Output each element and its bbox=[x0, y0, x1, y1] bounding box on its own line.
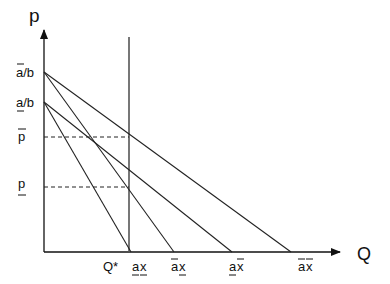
svg-text:a: a bbox=[229, 259, 237, 274]
svg-text:x: x bbox=[306, 259, 313, 274]
x-tick-abar-xunder: a x bbox=[171, 259, 186, 275]
svg-text:x: x bbox=[179, 259, 186, 274]
demand-line-abar-xunder bbox=[44, 72, 174, 252]
svg-text:x: x bbox=[140, 259, 147, 274]
x-tick-aunder-xbar: a x bbox=[229, 259, 244, 275]
x-tick-aunder-xunder: a x bbox=[132, 259, 147, 275]
demand-diagram: p Q a/b a/b p p Q* a x a x a x bbox=[0, 0, 390, 284]
svg-text:p: p bbox=[18, 176, 25, 191]
y-tick-aunder-over-b: a/b bbox=[16, 95, 34, 111]
x-tick-q-star: Q* bbox=[103, 259, 118, 274]
svg-text:a/b: a/b bbox=[16, 65, 34, 80]
x-tick-abar-xbar: a x bbox=[298, 259, 313, 274]
y-tick-p-bar: p bbox=[18, 129, 26, 144]
x-axis-label: Q bbox=[357, 244, 371, 264]
svg-text:a: a bbox=[132, 259, 140, 274]
demand-line-aunder-xunder bbox=[44, 102, 131, 252]
demand-line-abar-xbar bbox=[44, 72, 291, 252]
y-axis-label: p bbox=[29, 5, 40, 26]
demand-line-aunder-xbar bbox=[44, 102, 232, 252]
y-tick-p-under: p bbox=[18, 176, 26, 195]
svg-text:x: x bbox=[237, 259, 244, 274]
svg-text:p: p bbox=[18, 129, 25, 144]
y-tick-abar-over-b: a/b bbox=[16, 64, 34, 80]
svg-text:a: a bbox=[298, 259, 306, 274]
svg-text:a: a bbox=[171, 259, 179, 274]
svg-text:a/b: a/b bbox=[16, 95, 34, 110]
